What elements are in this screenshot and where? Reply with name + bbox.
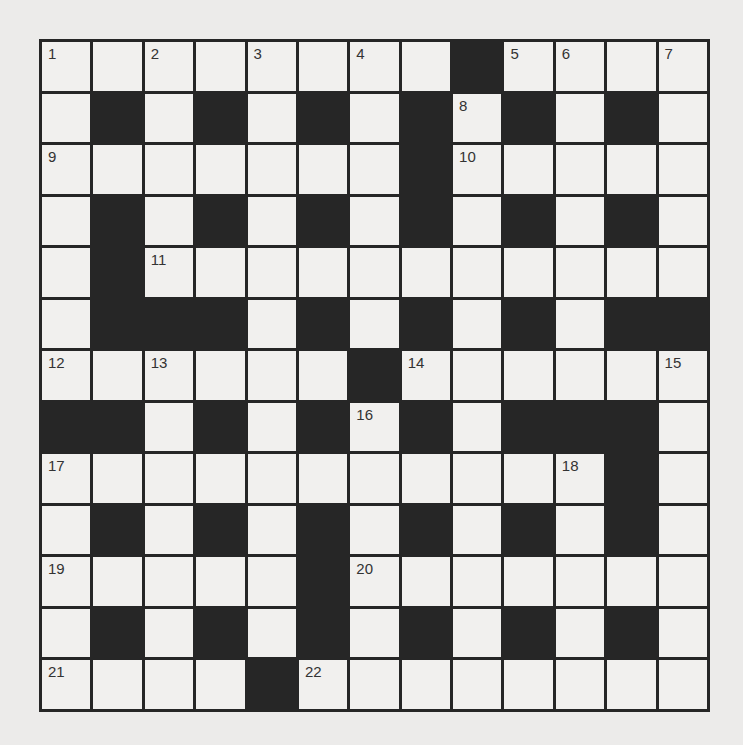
answer-cell[interactable] xyxy=(145,609,193,658)
answer-cell[interactable] xyxy=(196,660,244,709)
answer-cell[interactable] xyxy=(504,454,552,503)
answer-cell[interactable]: 8 xyxy=(453,94,501,143)
answer-cell[interactable] xyxy=(504,145,552,194)
answer-cell[interactable] xyxy=(196,248,244,297)
answer-cell[interactable] xyxy=(659,557,707,606)
answer-cell[interactable]: 9 xyxy=(42,145,90,194)
answer-cell[interactable]: 15 xyxy=(659,351,707,400)
answer-cell[interactable] xyxy=(659,403,707,452)
answer-cell[interactable] xyxy=(248,197,296,246)
answer-cell[interactable] xyxy=(504,248,552,297)
answer-cell[interactable] xyxy=(42,197,90,246)
answer-cell[interactable] xyxy=(248,248,296,297)
answer-cell[interactable] xyxy=(145,197,193,246)
answer-cell[interactable] xyxy=(350,506,398,555)
answer-cell[interactable] xyxy=(145,660,193,709)
answer-cell[interactable] xyxy=(248,351,296,400)
answer-cell[interactable] xyxy=(145,506,193,555)
answer-cell[interactable] xyxy=(607,42,655,91)
answer-cell[interactable] xyxy=(402,557,450,606)
answer-cell[interactable] xyxy=(453,403,501,452)
answer-cell[interactable]: 21 xyxy=(42,660,90,709)
answer-cell[interactable]: 4 xyxy=(350,42,398,91)
answer-cell[interactable] xyxy=(350,94,398,143)
answer-cell[interactable] xyxy=(248,403,296,452)
answer-cell[interactable] xyxy=(196,351,244,400)
answer-cell[interactable]: 13 xyxy=(145,351,193,400)
answer-cell[interactable] xyxy=(42,248,90,297)
answer-cell[interactable] xyxy=(248,454,296,503)
answer-cell[interactable] xyxy=(196,557,244,606)
answer-cell[interactable] xyxy=(42,506,90,555)
answer-cell[interactable] xyxy=(607,248,655,297)
answer-cell[interactable]: 10 xyxy=(453,145,501,194)
answer-cell[interactable] xyxy=(248,557,296,606)
answer-cell[interactable] xyxy=(350,454,398,503)
answer-cell[interactable] xyxy=(299,351,347,400)
answer-cell[interactable] xyxy=(42,609,90,658)
answer-cell[interactable] xyxy=(350,197,398,246)
answer-cell[interactable] xyxy=(145,454,193,503)
answer-cell[interactable] xyxy=(659,506,707,555)
answer-cell[interactable]: 12 xyxy=(42,351,90,400)
answer-cell[interactable]: 18 xyxy=(556,454,604,503)
answer-cell[interactable] xyxy=(299,145,347,194)
answer-cell[interactable] xyxy=(659,609,707,658)
answer-cell[interactable]: 14 xyxy=(402,351,450,400)
answer-cell[interactable] xyxy=(453,660,501,709)
answer-cell[interactable] xyxy=(607,145,655,194)
answer-cell[interactable] xyxy=(659,660,707,709)
answer-cell[interactable] xyxy=(504,660,552,709)
answer-cell[interactable] xyxy=(42,94,90,143)
answer-cell[interactable]: 1 xyxy=(42,42,90,91)
answer-cell[interactable] xyxy=(402,454,450,503)
answer-cell[interactable] xyxy=(248,145,296,194)
answer-cell[interactable] xyxy=(248,300,296,349)
answer-cell[interactable] xyxy=(453,454,501,503)
answer-cell[interactable] xyxy=(659,248,707,297)
answer-cell[interactable] xyxy=(453,506,501,555)
answer-cell[interactable] xyxy=(93,454,141,503)
answer-cell[interactable] xyxy=(42,300,90,349)
answer-cell[interactable] xyxy=(556,197,604,246)
answer-cell[interactable] xyxy=(145,403,193,452)
answer-cell[interactable] xyxy=(402,248,450,297)
answer-cell[interactable]: 16 xyxy=(350,403,398,452)
answer-cell[interactable] xyxy=(350,660,398,709)
answer-cell[interactable] xyxy=(556,248,604,297)
answer-cell[interactable] xyxy=(607,557,655,606)
answer-cell[interactable] xyxy=(196,42,244,91)
answer-cell[interactable] xyxy=(659,197,707,246)
answer-cell[interactable] xyxy=(453,197,501,246)
answer-cell[interactable] xyxy=(248,94,296,143)
answer-cell[interactable] xyxy=(504,351,552,400)
answer-cell[interactable] xyxy=(350,248,398,297)
answer-cell[interactable] xyxy=(248,506,296,555)
answer-cell[interactable] xyxy=(504,557,552,606)
answer-cell[interactable] xyxy=(556,660,604,709)
answer-cell[interactable] xyxy=(93,351,141,400)
answer-cell[interactable] xyxy=(93,660,141,709)
answer-cell[interactable] xyxy=(556,94,604,143)
answer-cell[interactable] xyxy=(350,145,398,194)
answer-cell[interactable] xyxy=(145,94,193,143)
answer-cell[interactable]: 17 xyxy=(42,454,90,503)
answer-cell[interactable] xyxy=(556,557,604,606)
answer-cell[interactable] xyxy=(556,351,604,400)
answer-cell[interactable] xyxy=(453,300,501,349)
answer-cell[interactable]: 2 xyxy=(145,42,193,91)
answer-cell[interactable] xyxy=(93,42,141,91)
answer-cell[interactable]: 20 xyxy=(350,557,398,606)
answer-cell[interactable] xyxy=(299,42,347,91)
answer-cell[interactable] xyxy=(402,660,450,709)
answer-cell[interactable] xyxy=(453,248,501,297)
answer-cell[interactable] xyxy=(402,42,450,91)
answer-cell[interactable] xyxy=(248,609,296,658)
answer-cell[interactable] xyxy=(556,145,604,194)
answer-cell[interactable] xyxy=(196,454,244,503)
answer-cell[interactable]: 3 xyxy=(248,42,296,91)
answer-cell[interactable] xyxy=(556,609,604,658)
answer-cell[interactable] xyxy=(556,300,604,349)
answer-cell[interactable] xyxy=(299,248,347,297)
answer-cell[interactable] xyxy=(556,506,604,555)
